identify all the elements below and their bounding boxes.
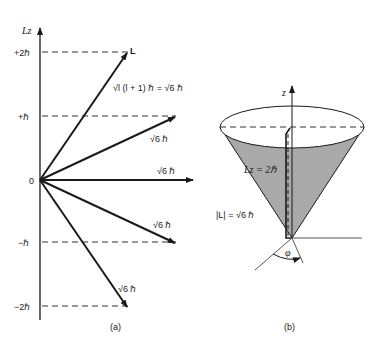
- vector-label-neg2: √6 ℏ: [118, 284, 136, 294]
- panel-a: Lz +2ℏ +ℏ 0 −ℏ −2ℏ L √l (l + 1) ℏ = √6 ℏ…: [14, 25, 193, 332]
- vector-label-0: √6 ℏ: [157, 166, 175, 176]
- vector-label-L: L: [130, 46, 136, 56]
- angular-momentum-diagram: Lz +2ℏ +ℏ 0 −ℏ −2ℏ L √l (l + 1) ℏ = √6 ℏ…: [0, 0, 383, 353]
- z-axis-label: z: [281, 87, 286, 98]
- vector-label-1: √6 ℏ: [150, 134, 168, 144]
- vector-m1: [40, 117, 175, 180]
- caption-b: (b): [284, 322, 295, 332]
- magnitude-equation: √l (l + 1) ℏ = √6 ℏ: [113, 83, 183, 93]
- phi-label: φ: [285, 247, 291, 258]
- level-label-zero: 0: [29, 176, 34, 186]
- level-label-minus1: −ℏ: [18, 238, 29, 248]
- level-label-plus1: +ℏ: [18, 112, 29, 122]
- panel-b: z Lz = 2ℏ |L| = √6 ℏ φ (b): [216, 86, 364, 332]
- vector-mneg2: [40, 180, 127, 307]
- level-label-plus2: +2ℏ: [14, 48, 30, 58]
- level-label-minus2: −2ℏ: [14, 302, 30, 312]
- lz-axis-label: Lz: [21, 25, 32, 36]
- magnitude-label: |L| = √6 ℏ: [216, 210, 254, 220]
- vector-mneg1: [40, 180, 175, 243]
- lz-label: Lz = 2ℏ: [243, 164, 277, 175]
- caption-a: (a): [110, 322, 121, 332]
- vector-label-neg1: √6 ℏ: [153, 220, 171, 230]
